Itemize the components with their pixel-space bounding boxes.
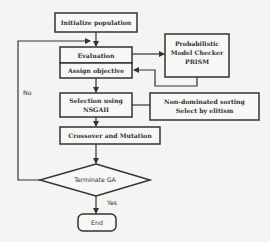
no-label: No [23, 89, 32, 96]
nondominated-line1: Non-dominated sorting [164, 98, 246, 106]
prism-node: Probabilistic Model Checker PRISM [165, 34, 229, 77]
prism-line2: Model Checker [171, 49, 224, 56]
assign-objective-label: Assign objective [67, 67, 124, 75]
evaluation-node: Evaluation [60, 47, 132, 63]
end-label: End [91, 219, 103, 226]
evaluation-label: Evaluation [77, 52, 115, 59]
crossover-label: Crossover and Mutation [68, 132, 152, 139]
selection-line2: NSGAII [83, 106, 109, 113]
selection-node: Selection using NSGAII [60, 93, 132, 117]
flowchart: Initialize population Evaluation Assign … [0, 0, 270, 242]
nondominated-line2: Select by elitism [176, 107, 234, 115]
crossover-node: Crossover and Mutation [60, 127, 160, 144]
init-node: Initialize population [55, 13, 137, 32]
end-node: End [78, 214, 116, 231]
selection-line1: Selection using [69, 97, 123, 105]
terminate-label: Terminate GA [73, 176, 116, 183]
nondominated-node: Non-dominated sorting Select by elitism [150, 93, 259, 120]
init-label: Initialize population [61, 19, 132, 27]
terminate-decision: Terminate GA [40, 164, 150, 196]
prism-line1: Probabilistic [175, 40, 219, 47]
assign-objective-node: Assign objective [60, 63, 132, 78]
yes-label: Yes [106, 199, 117, 206]
prism-line3: PRISM [185, 58, 209, 65]
